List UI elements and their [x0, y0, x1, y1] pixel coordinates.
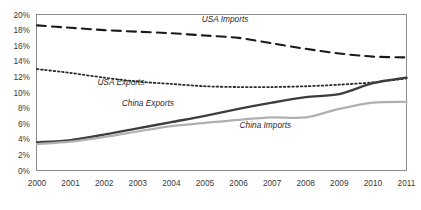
- y-axis-tick-10%: 10%: [13, 88, 30, 98]
- series-label-china-exports: China Exports: [122, 98, 174, 108]
- x-axis-tick-2007: 2007: [263, 178, 282, 188]
- x-axis-tick-2000: 2000: [28, 178, 47, 188]
- series-label-china-imports: China Imports: [240, 120, 292, 130]
- y-axis-tick-8%: 8%: [18, 103, 31, 113]
- y-axis-tick-16%: 16%: [13, 41, 30, 51]
- x-axis-tick-2005: 2005: [196, 178, 215, 188]
- series-label-usa-exports: USA Exports: [97, 77, 144, 87]
- x-axis-tick-2004: 2004: [162, 178, 181, 188]
- y-axis-tick-2%: 2%: [18, 150, 31, 160]
- y-axis-tick-18%: 18%: [13, 25, 30, 35]
- plot-area-frame: [37, 15, 407, 171]
- y-axis-tick-4%: 4%: [18, 134, 31, 144]
- y-axis-tick-20%: 20%: [13, 10, 30, 20]
- y-axis-tick-12%: 12%: [13, 72, 30, 82]
- x-axis-tick-2009: 2009: [330, 178, 349, 188]
- y-axis-tick-14%: 14%: [13, 56, 30, 66]
- x-axis-tick-2008: 2008: [296, 178, 315, 188]
- y-axis-tick-6%: 6%: [18, 119, 31, 129]
- series-label-usa-imports: USA Imports: [202, 14, 249, 24]
- x-axis-tick-2010: 2010: [364, 178, 383, 188]
- y-axis-tick-0%: 0%: [18, 166, 31, 176]
- x-axis-tick-2003: 2003: [129, 178, 148, 188]
- series-line-usa-exports: [37, 69, 407, 87]
- series-lines: [37, 25, 407, 144]
- y-axis-tick-labels: 0%2%4%6%8%10%12%14%16%18%20%: [13, 10, 30, 176]
- line-chart: 0%2%4%6%8%10%12%14%16%18%20% 20002001200…: [0, 0, 421, 210]
- series-line-usa-imports: [37, 25, 407, 57]
- x-axis-tick-2002: 2002: [95, 178, 114, 188]
- chart-canvas: 0%2%4%6%8%10%12%14%16%18%20% 20002001200…: [0, 0, 421, 210]
- x-axis-tick-labels: 2000200120022003200420052006200720082009…: [28, 178, 416, 188]
- x-axis-tick-2011: 2011: [398, 178, 416, 188]
- x-axis-tick-2001: 2001: [61, 178, 80, 188]
- x-axis-tick-2006: 2006: [229, 178, 248, 188]
- series-line-china-imports: [37, 102, 407, 144]
